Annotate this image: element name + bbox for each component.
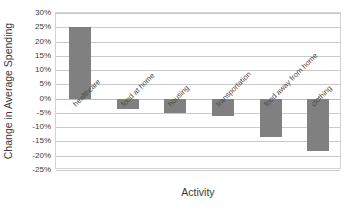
y-tick-label: 20% — [35, 36, 51, 45]
bar[interactable] — [307, 99, 329, 152]
y-tick-label: 5% — [39, 79, 51, 88]
bar[interactable] — [117, 99, 139, 109]
y-tick-label: -5% — [37, 107, 51, 116]
y-tick-label: -25% — [32, 165, 51, 174]
bar[interactable] — [260, 99, 282, 138]
bar[interactable] — [164, 99, 186, 113]
plot-area: healthcarefood at homehousingtransportat… — [55, 12, 341, 169]
bar[interactable] — [69, 27, 91, 98]
y-tick-label: 10% — [35, 65, 51, 74]
y-tick-label: 0% — [39, 93, 51, 102]
y-axis-title: Change in Average Spending — [0, 0, 16, 182]
bar-chart: Change in Average Spending 30%25%20%15%1… — [0, 0, 348, 211]
bar[interactable] — [212, 99, 234, 116]
y-tick-label: 15% — [35, 50, 51, 59]
y-axis-tick-labels: 30%25%20%15%10%5%0%-5%-10%-15%-20%-25% — [16, 12, 54, 169]
y-tick-label: -10% — [32, 122, 51, 131]
y-tick-label: -15% — [32, 136, 51, 145]
y-tick-label: 25% — [35, 22, 51, 31]
y-axis-title-text: Change in Average Spending — [2, 23, 14, 159]
y-tick-label: 30% — [35, 8, 51, 17]
y-tick-label: -20% — [32, 150, 51, 159]
bars-layer — [56, 13, 340, 168]
gridline — [56, 170, 340, 171]
x-axis-title: Activity — [55, 186, 341, 198]
